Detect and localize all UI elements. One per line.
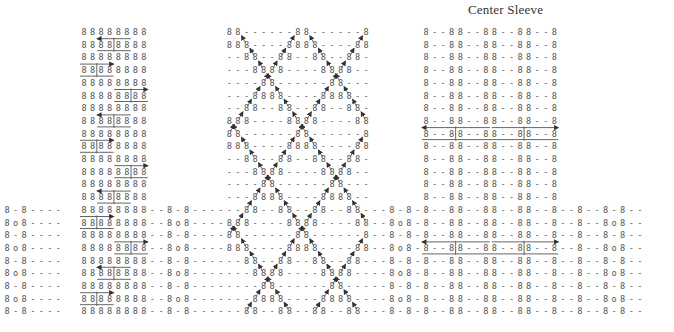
knit-stitch: 8 [80,90,89,102]
knit-stitch: 8 [97,293,106,305]
purl-stitch: - [473,128,482,140]
knit-stitch: 8 [88,51,97,63]
purl-stitch: - [28,255,37,267]
knit-stitch: 8 [3,305,12,317]
purl-stitch: - [225,255,234,267]
purl-stitch: - [285,293,294,305]
knit-stitch: 8 [447,77,456,89]
knit-stitch: 8 [293,39,302,51]
purl-stitch: - [464,26,473,38]
knit-stitch: 8 [550,128,559,140]
purl-stitch: - [413,293,422,305]
purl-stitch: - [541,51,550,63]
knit-stitch: 8 [268,64,277,76]
knit-stitch: 8 [482,166,491,178]
knit-stitch: 8 [388,267,397,279]
purl-stitch: - [157,217,166,229]
knit-stitch: 8 [524,178,533,190]
knit-stitch: 8 [285,51,294,63]
knit-stitch: 8 [311,140,320,152]
purl-stitch: - [593,267,602,279]
knit-stitch: 8 [97,64,106,76]
purl-stitch: - [46,217,55,229]
knit-stitch: 8 [88,77,97,89]
knit-stitch: 8 [114,280,123,292]
knit-stitch: 8 [524,204,533,216]
purl-stitch: - [199,305,208,317]
purl-stitch: - [541,242,550,254]
knit-stitch: 8 [122,26,131,38]
purl-stitch: - [242,77,251,89]
knit-stitch: 8 [242,39,251,51]
purl-stitch: - [319,280,328,292]
knit-stitch: 8 [105,217,114,229]
knit-stitch: 8 [456,64,465,76]
knit-stitch: 8 [259,64,268,76]
knit-stitch: 8 [3,293,12,305]
purl-stitch: - [157,293,166,305]
knit-stitch: 8 [422,64,431,76]
purl-stitch: - [242,280,251,292]
purl-stitch: - [234,191,243,203]
knit-stitch: 8 [482,255,491,267]
knit-stitch: 8 [165,229,174,241]
purl-stitch: - [499,102,508,114]
knit-stitch: 8 [345,305,354,317]
knit-stitch: 8 [482,115,491,127]
knit-stitch: 8 [105,204,114,216]
purl-stitch: - [379,229,388,241]
purl-stitch: - [473,229,482,241]
knit-stitch: 8 [234,115,243,127]
knit-stitch: 8 [251,255,260,267]
purl-stitch: - [293,280,302,292]
knit-stitch: 8 [114,242,123,254]
knit-stitch: 8 [447,166,456,178]
purl-stitch: - [567,267,576,279]
knit-stitch: 8 [362,26,371,38]
knit-stitch: 8 [114,140,123,152]
knit-stitch: 8 [105,128,114,140]
purl-stitch: - [499,267,508,279]
knit-stitch: 8 [422,115,431,127]
knit-stitch: 8 [456,204,465,216]
purl-stitch: - [234,305,243,317]
knit-stitch: 8 [276,102,285,114]
knit-stitch: 8 [490,64,499,76]
knit-stitch: 8 [80,39,89,51]
knit-stitch: 8 [105,26,114,38]
purl-stitch: - [336,242,345,254]
knit-stitch: 8 [319,293,328,305]
purl-stitch: - [157,305,166,317]
knit-stitch: 8 [114,90,123,102]
knit-stitch: 8 [302,115,311,127]
purl-stitch: - [319,217,328,229]
purl-stitch: - [439,153,448,165]
purl-stitch: - [302,255,311,267]
purl-stitch: - [533,178,542,190]
purl-stitch: - [541,293,550,305]
knit-stitch: 8 [422,128,431,140]
knit-stitch: 8 [114,77,123,89]
purl-stitch: - [464,280,473,292]
purl-stitch: - [311,26,320,38]
knit-stitch: 8 [482,217,491,229]
purl-stitch: - [293,178,302,190]
purl-stitch: - [54,305,63,317]
purl-stitch: - [464,267,473,279]
knit-stitch: 8 [490,51,499,63]
knit-stitch: 8 [490,140,499,152]
knit-stitch: 8 [131,166,140,178]
knit-stitch: 8 [140,191,149,203]
purl-stitch: - [345,140,354,152]
knit-stitch: 8 [490,115,499,127]
purl-stitch: - [379,293,388,305]
knit-stitch: 8 [140,242,149,254]
knit-stitch: 8 [293,229,302,241]
knit-stitch: 8 [516,51,525,63]
purl-stitch: - [499,90,508,102]
purl-stitch: - [345,229,354,241]
purl-stitch: - [345,115,354,127]
purl-stitch: - [593,204,602,216]
purl-stitch: - [430,64,439,76]
purl-stitch: - [46,267,55,279]
